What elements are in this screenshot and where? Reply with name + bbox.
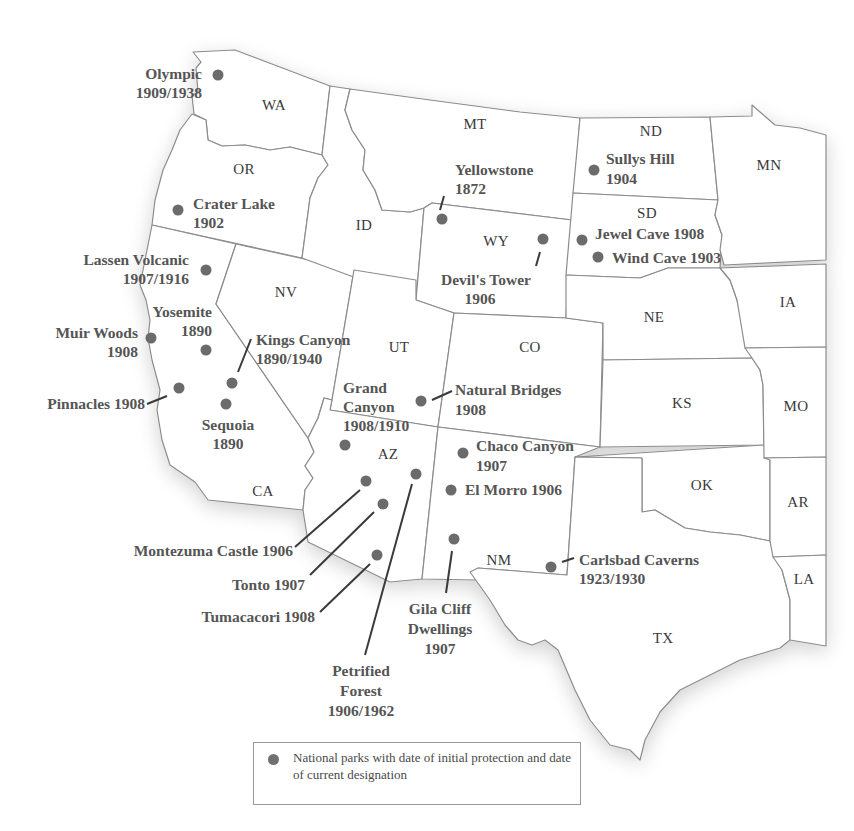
state-label-wy: WY xyxy=(483,233,509,249)
label-jewel-cave: Jewel Cave 1908 xyxy=(595,225,705,242)
park-dot-sequoia[interactable] xyxy=(221,399,232,410)
state-label-ca: CA xyxy=(252,483,273,499)
legend-text: National parks with date of initial prot… xyxy=(293,749,573,783)
label-lassen-dates: 1907/1916 xyxy=(123,270,190,287)
state-label-sd: SD xyxy=(637,205,657,221)
state-label-ia: IA xyxy=(780,294,796,310)
park-dot-montezuma-castle[interactable] xyxy=(361,476,372,487)
label-devils-dates: 1906 xyxy=(465,290,496,307)
state-label-az: AZ xyxy=(378,446,399,462)
label-sullys-name: Sullys Hill xyxy=(606,150,675,167)
park-dot-icon xyxy=(268,754,279,765)
label-wind-cave: Wind Cave 1903 xyxy=(612,249,721,266)
label-olympic-dates: 1909/1938 xyxy=(136,84,203,101)
park-dot-wind-cave[interactable] xyxy=(593,252,604,263)
park-dot-tumacacori[interactable] xyxy=(372,550,383,561)
state-label-nv: NV xyxy=(275,284,297,300)
label-sequoia-name: Sequoia xyxy=(202,416,255,433)
state-label-nd: ND xyxy=(640,123,662,139)
label-gila-3: 1907 xyxy=(425,640,456,657)
park-dot-pinnacles[interactable] xyxy=(174,383,185,394)
state-label-or: OR xyxy=(233,161,254,177)
label-yellowstone-dates: 1872 xyxy=(455,180,486,197)
label-tonto: Tonto 1907 xyxy=(232,576,305,593)
park-dot-chaco-canyon[interactable] xyxy=(458,448,469,459)
label-carlsbad-dates: 1923/1930 xyxy=(579,570,646,587)
state-label-ks: KS xyxy=(672,395,692,411)
park-dot-yellowstone[interactable] xyxy=(437,214,448,225)
label-kings-dates: 1890/1940 xyxy=(256,350,323,367)
label-muir-name: Muir Woods xyxy=(55,324,138,341)
label-chaco-dates: 1907 xyxy=(476,457,507,474)
park-dot-yosemite[interactable] xyxy=(201,345,212,356)
state-label-nm: NM xyxy=(487,552,512,568)
park-dot-petrified-forest[interactable] xyxy=(411,469,422,480)
park-dot-natural-bridges[interactable] xyxy=(416,396,427,407)
label-gila-2: Dwellings xyxy=(408,620,473,637)
leader-tumacacori xyxy=(320,564,370,612)
state-label-mt: MT xyxy=(463,116,486,132)
state-mt xyxy=(345,89,580,220)
park-dot-crater-lake[interactable] xyxy=(173,205,184,216)
label-tumacacori: Tumacacori 1908 xyxy=(201,608,315,625)
label-sequoia-dates: 1890 xyxy=(213,435,244,452)
label-pinnacles: Pinnacles 1908 xyxy=(47,395,145,412)
state-label-mo: MO xyxy=(784,398,809,414)
map-legend: National parks with date of initial prot… xyxy=(253,742,581,805)
label-el-morro: El Morro 1906 xyxy=(465,481,562,498)
label-devils-name: Devil's Tower xyxy=(441,271,531,288)
label-yellowstone-name: Yellowstone xyxy=(455,161,533,178)
park-dot-lassen[interactable] xyxy=(201,265,212,276)
state-label-ut: UT xyxy=(389,339,410,355)
label-grand-2: Canyon xyxy=(343,398,395,415)
state-label-tx: TX xyxy=(653,630,674,646)
label-montezuma: Montezuma Castle 1906 xyxy=(134,542,294,559)
western-us-map: WA OR CA ID NV MT WY UT AZ CO NM ND SD N… xyxy=(0,0,854,831)
label-gila-1: Gila Cliff xyxy=(409,600,472,617)
state-label-ne: NE xyxy=(644,309,665,325)
label-yosemite-dates: 1890 xyxy=(181,322,212,339)
label-petrified-2: Forest xyxy=(340,682,383,699)
state-label-ok: OK xyxy=(691,477,713,493)
park-dot-gila-cliff[interactable] xyxy=(449,534,460,545)
park-dot-devils-tower[interactable] xyxy=(538,234,549,245)
park-dot-jewel-cave[interactable] xyxy=(577,235,588,246)
label-natural-dates: 1908 xyxy=(455,401,486,418)
label-kings-name: Kings Canyon xyxy=(256,331,351,348)
label-crater-name: Crater Lake xyxy=(193,195,275,212)
label-crater-dates: 1902 xyxy=(193,214,224,231)
state-label-wa: WA xyxy=(262,97,286,113)
park-dot-carlsbad[interactable] xyxy=(546,562,557,573)
park-dot-muir-woods[interactable] xyxy=(146,333,157,344)
label-olympic-name: Olympic xyxy=(145,65,202,82)
park-dot-grand-canyon[interactable] xyxy=(340,440,351,451)
park-dot-sullys-hill[interactable] xyxy=(589,165,600,176)
label-petrified-3: 1906/1962 xyxy=(328,702,395,719)
label-lassen-name: Lassen Volcanic xyxy=(83,251,189,268)
state-label-ar: AR xyxy=(787,494,808,510)
park-dot-tonto[interactable] xyxy=(378,499,389,510)
park-dot-olympic[interactable] xyxy=(213,70,224,81)
label-carlsbad-name: Carlsbad Caverns xyxy=(579,551,699,568)
state-label-mn: MN xyxy=(757,157,782,173)
state-wa xyxy=(192,50,330,155)
park-dot-kings-canyon[interactable] xyxy=(227,378,238,389)
state-label-co: CO xyxy=(519,339,540,355)
label-petrified-1: Petrified xyxy=(332,662,390,679)
label-yosemite-name: Yosemite xyxy=(153,303,213,320)
state-mn xyxy=(710,105,826,265)
park-dot-el-morro[interactable] xyxy=(446,485,457,496)
state-label-id: ID xyxy=(356,217,372,233)
label-natural-name: Natural Bridges xyxy=(455,381,561,398)
label-grand-3: 1908/1910 xyxy=(343,417,410,434)
label-muir-dates: 1908 xyxy=(107,343,138,360)
label-grand-1: Grand xyxy=(343,379,387,396)
state-co xyxy=(438,313,603,447)
label-chaco-name: Chaco Canyon xyxy=(476,437,574,454)
label-sullys-dates: 1904 xyxy=(606,170,637,187)
state-label-la: LA xyxy=(794,571,815,587)
